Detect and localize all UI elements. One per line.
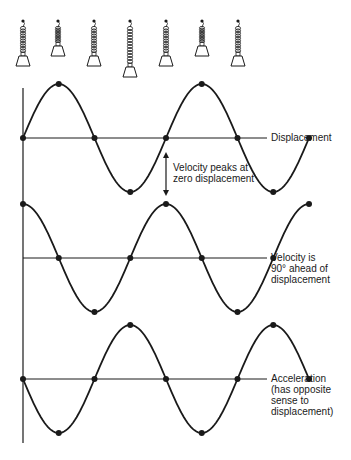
displacement-point	[127, 189, 133, 195]
displacement-point	[163, 135, 169, 141]
acceleration-point	[270, 322, 276, 328]
arrow-down-head-icon	[163, 190, 169, 196]
acceleration-point	[92, 376, 98, 382]
weight-icon	[51, 46, 65, 56]
displacement-label: Displacement	[271, 132, 332, 143]
acceleration-label: Acceleration (has opposite sense to disp…	[271, 373, 333, 417]
weight-icon	[231, 56, 245, 66]
arrow-up-head-icon	[163, 152, 169, 158]
weight-icon	[16, 56, 30, 66]
weight-icon	[123, 67, 137, 77]
velocity-peak-annotation: Velocity peaks at zero displacement	[173, 162, 254, 184]
velocity-point	[20, 201, 26, 207]
weight-icon	[195, 46, 209, 56]
acceleration-point	[199, 430, 205, 436]
acceleration-point	[127, 322, 133, 328]
weight-icon	[159, 56, 173, 66]
velocity-point	[199, 255, 205, 261]
velocity-point	[56, 255, 62, 261]
displacement-point	[270, 189, 276, 195]
shm-diagram: Displacement Velocity peaks at zero disp…	[0, 0, 351, 460]
velocity-label: Velocity is 90° ahead of displacement	[271, 252, 330, 285]
displacement-point	[20, 135, 26, 141]
displacement-point	[92, 135, 98, 141]
displacement-point	[199, 81, 205, 87]
weight-icon	[87, 56, 101, 66]
velocity-point	[306, 201, 312, 207]
displacement-point	[56, 81, 62, 87]
displacement-point	[235, 135, 241, 141]
velocity-point	[235, 309, 241, 315]
acceleration-point	[163, 376, 169, 382]
acceleration-point	[20, 376, 26, 382]
velocity-point	[163, 201, 169, 207]
velocity-point	[92, 309, 98, 315]
acceleration-point	[235, 376, 241, 382]
velocity-point	[127, 255, 133, 261]
acceleration-point	[56, 430, 62, 436]
